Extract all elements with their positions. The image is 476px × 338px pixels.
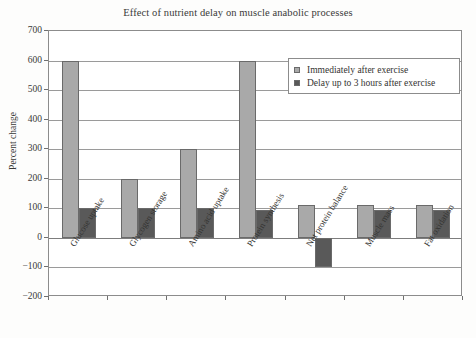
y-tick-mark-700 <box>44 30 48 31</box>
bar-4-1 <box>315 238 332 268</box>
x-tick-mark-2 <box>166 296 167 300</box>
y-tick-mark-500 <box>44 89 48 90</box>
bar-0-0 <box>62 61 79 238</box>
x-tick-mark-6 <box>403 296 404 300</box>
y-tick-label-500: 500 <box>2 84 42 94</box>
y-tick-mark-0 <box>44 237 48 238</box>
y-tick-label--200: −200 <box>2 291 42 301</box>
x-tick-mark-4 <box>285 296 286 300</box>
y-tick-mark-400 <box>44 119 48 120</box>
x-tick-mark-5 <box>344 296 345 300</box>
y-tick-label-0: 0 <box>2 232 42 242</box>
legend-label-1: Delay up to 3 hours after exercise <box>307 78 435 88</box>
y-tick-label-700: 700 <box>2 25 42 35</box>
chart-legend: Immediately after exerciseDelay up to 3 … <box>288 58 460 94</box>
bar-chart: Effect of nutrient delay on muscle anabo… <box>0 0 476 338</box>
gridline--100 <box>49 267 461 268</box>
x-tick-mark-3 <box>225 296 226 300</box>
x-tick-mark-end <box>462 296 463 300</box>
y-tick-mark--200 <box>44 296 48 297</box>
legend-swatch-icon-0 <box>294 67 300 73</box>
y-tick-label-200: 200 <box>2 173 42 183</box>
y-tick-label-100: 100 <box>2 202 42 212</box>
y-tick-mark-100 <box>44 207 48 208</box>
chart-title: Effect of nutrient delay on muscle anabo… <box>0 7 476 18</box>
y-tick-label--100: −100 <box>2 261 42 271</box>
legend-label-0: Immediately after exercise <box>307 65 408 75</box>
x-tick-mark-0 <box>48 296 49 300</box>
legend-swatch-icon-1 <box>294 80 300 86</box>
legend-item-0[interactable]: Immediately after exercise <box>294 63 454 76</box>
x-tick-mark-1 <box>107 296 108 300</box>
legend-item-1[interactable]: Delay up to 3 hours after exercise <box>294 76 454 89</box>
bar-2-0 <box>180 149 197 238</box>
y-tick-mark-300 <box>44 148 48 149</box>
y-tick-label-400: 400 <box>2 114 42 124</box>
y-tick-mark-200 <box>44 178 48 179</box>
bar-3-0 <box>239 61 256 238</box>
y-axis-tick-labels: 7006005004003002001000−100−200 <box>0 0 42 338</box>
y-tick-mark-600 <box>44 60 48 61</box>
y-tick-mark--100 <box>44 266 48 267</box>
y-tick-label-300: 300 <box>2 143 42 153</box>
y-tick-label-600: 600 <box>2 55 42 65</box>
